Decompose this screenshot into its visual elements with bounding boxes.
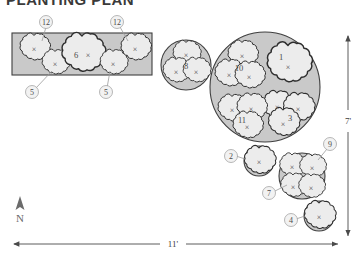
plant-label-8: 8: [184, 61, 188, 71]
dimension-height: 7': [345, 36, 352, 236]
plant-mark: ×: [257, 158, 262, 167]
plant-mark: ×: [53, 60, 58, 69]
plant-label-6: 6: [74, 50, 78, 60]
bed-two: × 2: [225, 145, 277, 176]
bed-nine: × × × × 9 7: [263, 138, 337, 200]
plant-mark: ×: [286, 63, 291, 72]
plant-mark: ×: [240, 52, 245, 61]
callout-label: 12: [113, 18, 121, 27]
plant-mark: ×: [310, 164, 315, 173]
plant-mark: ×: [184, 51, 189, 60]
north-label: N: [16, 212, 24, 224]
plant-mark: ×: [133, 45, 138, 54]
callout-label: 4: [289, 216, 293, 225]
callout-label: 5: [30, 88, 34, 97]
plant-mark: ×: [230, 106, 235, 115]
bed-four: × 4: [285, 200, 337, 231]
plant-label-10: 10: [235, 63, 244, 73]
callout-label: 9: [328, 140, 332, 149]
plant-mark: ×: [249, 105, 254, 114]
plant-mark: ×: [317, 213, 322, 222]
plant-mark: ×: [309, 184, 314, 193]
plant-mark: ×: [227, 71, 232, 80]
plant-label-1: 1: [279, 52, 283, 62]
callout-label: 7: [267, 189, 271, 198]
dimension-width: 11': [14, 239, 338, 249]
plant-mark: ×: [290, 163, 295, 172]
small-round-bed: × × × 8: [161, 40, 211, 90]
plant-mark: ×: [32, 45, 37, 54]
plant-mark: ×: [281, 120, 286, 129]
plant-mark: ×: [296, 105, 301, 114]
planting-plan-drawing: × × 6 × × × 12 5 12 5: [0, 0, 364, 265]
callout-label: 12: [42, 18, 50, 27]
dimension-height-label: 7': [345, 116, 352, 126]
plant-mark: ×: [174, 68, 179, 77]
dimension-width-label: 11': [168, 239, 179, 249]
plant-label-3: 3: [288, 113, 292, 123]
large-round-bed: × × × 10 1 × × × × 3 × × × 11: [210, 32, 320, 142]
plant-mark: ×: [111, 60, 116, 69]
plant-mark: ×: [291, 183, 296, 192]
callout-label: 2: [229, 152, 233, 161]
plant-mark: ×: [86, 51, 91, 60]
plant-label-11: 11: [238, 115, 246, 125]
rectangular-bed: × × 6 × × × 12 5 12 5: [12, 16, 152, 99]
plant-mark: ×: [194, 68, 199, 77]
callout-label: 5: [104, 88, 108, 97]
plant-mark: ×: [275, 103, 280, 112]
north-arrow-icon: N: [16, 196, 25, 224]
plant-mark: ×: [247, 73, 252, 82]
